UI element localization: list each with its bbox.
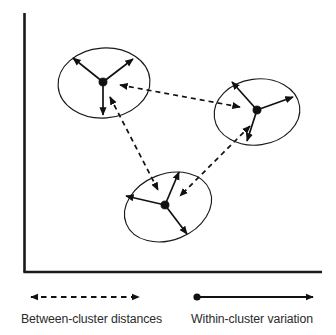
axes-group xyxy=(24,13,323,273)
cluster-top-left-arrow-up-right xyxy=(103,59,133,82)
cluster-top-left-arrow-up-left xyxy=(73,58,103,82)
cluster-bottom-arrow-left xyxy=(126,196,165,205)
legend-markers-group xyxy=(31,293,313,300)
between-cluster-links-group xyxy=(110,85,250,196)
between-link-topleft-bottom xyxy=(110,97,158,190)
legend-label-within-cluster-variation: Within-cluster variation xyxy=(191,312,313,326)
cluster-right-arrow-down-left xyxy=(247,110,257,141)
between-link-topleft-right xyxy=(120,85,240,107)
cluster-bottom-centroid xyxy=(161,201,169,209)
legend-label-between-cluster-distances: Between-cluster distances xyxy=(21,312,162,326)
between-link-right-bottom xyxy=(180,126,250,196)
cluster-bottom xyxy=(114,160,222,255)
cluster-diagram-figure: Between-cluster distances Within-cluster… xyxy=(0,0,336,335)
cluster-right-centroid xyxy=(253,106,261,114)
cluster-right-arrow-right xyxy=(257,97,293,110)
cluster-top-left-centroid xyxy=(99,78,107,86)
cluster-bottom-arrow-up-right xyxy=(165,172,179,205)
cluster-right xyxy=(210,73,304,150)
cluster-top-left xyxy=(56,45,153,121)
figure-canvas xyxy=(0,0,336,335)
cluster-bottom-arrow-down-right xyxy=(165,205,187,234)
